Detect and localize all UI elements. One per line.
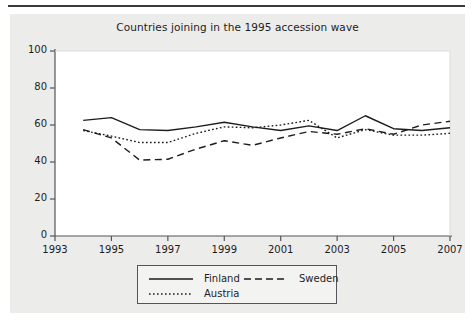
legend-key-dashed-icon (243, 274, 289, 284)
y-tick-label-80: 80 (17, 81, 47, 92)
legend-entry-austria: Austria (148, 288, 239, 299)
legend-label-finland: Finland (204, 273, 240, 284)
x-tick-label-2003: 2003 (317, 244, 357, 255)
legend-key-dotted-icon (148, 289, 194, 299)
x-tick-label-1993: 1993 (35, 244, 75, 255)
legend-entry-sweden: Sweden (243, 273, 339, 284)
x-tick-label-1999: 1999 (204, 244, 244, 255)
legend-label-austria: Austria (204, 288, 239, 299)
y-tick-label-100: 100 (17, 44, 47, 55)
x-tick-label-2005: 2005 (374, 244, 414, 255)
x-tick-label-2001: 2001 (261, 244, 301, 255)
chart-figure: Countries joining in the 1995 accession … (0, 0, 473, 326)
top-horizontal-rule (8, 5, 465, 7)
y-tick-label-40: 40 (17, 155, 47, 166)
x-tick-label-1997: 1997 (148, 244, 188, 255)
x-tick-label-2007: 2007 (430, 244, 470, 255)
legend-entry-finland: Finland (148, 273, 240, 284)
chart-legend: Finland Sweden Austria (137, 265, 337, 304)
y-tick-label-60: 60 (17, 118, 47, 129)
legend-key-solid-icon (148, 274, 194, 284)
legend-label-sweden: Sweden (299, 273, 339, 284)
y-tick-label-0: 0 (17, 229, 47, 240)
y-tick-label-20: 20 (17, 192, 47, 203)
x-tick-label-1995: 1995 (91, 244, 131, 255)
